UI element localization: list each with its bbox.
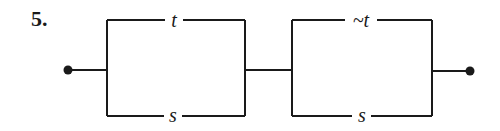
left-terminal-dot-icon <box>64 66 73 75</box>
circuit-figure: 5. t s ~t s <box>0 0 500 131</box>
block2-top-label: ~t <box>353 9 370 31</box>
circuit-diagram: t s ~t s <box>0 0 500 131</box>
block2-bottom-label: s <box>358 104 366 126</box>
block1-top-label: t <box>171 9 177 31</box>
right-terminal-dot-icon <box>466 67 475 76</box>
block1-bottom-label: s <box>169 104 177 126</box>
